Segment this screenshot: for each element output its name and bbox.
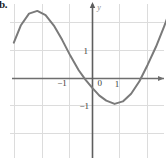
coordinate-plot: −1 0 1 1 −1 y — [0, 0, 166, 161]
graph-figure: b. −1 0 1 1 −1 y — [0, 0, 166, 161]
x-tick-label-0: 0 — [98, 78, 103, 88]
x-tick-label-neg1: −1 — [57, 78, 67, 88]
y-tick-label-neg1: −1 — [79, 101, 89, 111]
curve-path — [14, 11, 166, 104]
y-tick-label-1: 1 — [84, 46, 89, 56]
y-axis — [90, 2, 95, 158]
x-tick-label-1: 1 — [115, 79, 120, 89]
y-axis-name-label: y — [96, 3, 101, 12]
axis-tick-labels: −1 0 1 1 −1 y — [57, 3, 119, 111]
